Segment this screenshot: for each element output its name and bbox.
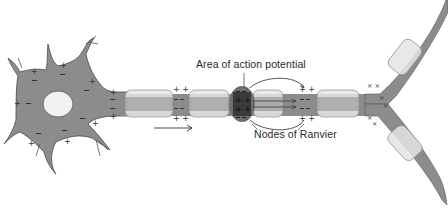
svg-text:+ +: + + [299,85,315,94]
svg-text:+ +: + + [299,114,315,123]
svg-text:+: + [31,67,38,76]
nucleus [43,91,73,117]
svg-text:+: + [92,119,99,128]
neuron-diagram: + + + + + + + + + + + + + [0,0,448,210]
svg-text:×: × [379,94,384,102]
svg-text:+: + [28,139,35,148]
svg-text:+: + [14,99,21,108]
svg-text:+ +: + + [235,96,251,105]
svg-text:×: × [383,102,388,110]
direction-arrow [154,125,192,131]
label-action-potential: Area of action potential [196,58,306,70]
svg-text:+: + [64,137,71,146]
axon-terminal [365,0,448,205]
svg-text:+ +: + + [235,105,251,114]
svg-text:+: + [89,77,96,86]
svg-text:+: + [110,88,117,97]
svg-text:+ +: + + [173,85,189,94]
svg-text:× ×: × × [367,82,380,90]
label-nodes-of-ranvier: Nodes of Ranvier [254,128,337,140]
svg-text:×: × [372,120,377,128]
svg-text:+ +: + + [173,114,189,123]
svg-text:+: + [110,112,117,121]
svg-text:+: + [60,61,67,70]
